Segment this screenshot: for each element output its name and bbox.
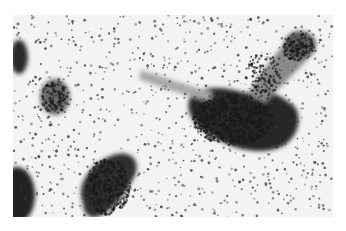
micrograph — [13, 15, 333, 217]
micrograph-canvas — [13, 15, 333, 217]
image-frame — [0, 0, 346, 231]
